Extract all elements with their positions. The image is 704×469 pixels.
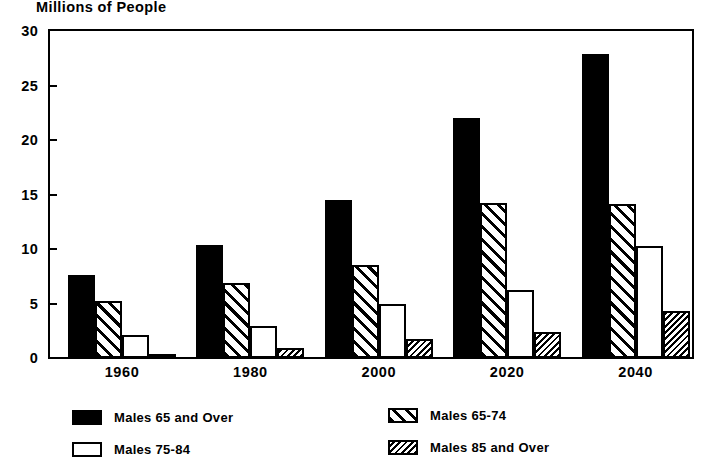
bar [223, 283, 250, 358]
bar [636, 246, 663, 358]
page-title: Millions of People [36, 0, 166, 15]
bar [406, 339, 433, 358]
y-axis-tick-label: 20 [21, 132, 38, 148]
bar [534, 332, 561, 358]
bar [507, 290, 534, 358]
legend-item: Males 65-74 [388, 408, 506, 423]
bar [453, 118, 480, 358]
bar [196, 245, 223, 358]
bar [122, 335, 149, 358]
y-axis-tick-label: 10 [21, 241, 38, 257]
legend-swatch-icon [388, 440, 418, 455]
y-axis-tick-label: 25 [21, 78, 38, 94]
x-axis-tick-label: 1980 [233, 364, 268, 380]
bar [95, 301, 122, 358]
legend-swatch-icon [72, 410, 102, 425]
bar [277, 348, 304, 358]
bar [352, 265, 379, 358]
bar [250, 326, 277, 358]
bar [480, 203, 507, 358]
bar-chart-figure: Millions of People 051015202530 19601980… [0, 0, 704, 469]
legend-item: Males 65 and Over [72, 410, 233, 425]
y-axis-tick-label: 5 [30, 296, 38, 312]
y-axis-tick-label: 0 [30, 350, 38, 366]
x-axis-tick-label: 2040 [618, 364, 653, 380]
bars-layer [50, 31, 692, 358]
bar [149, 354, 176, 358]
y-axis-tick-label: 30 [21, 23, 38, 39]
bar [325, 200, 352, 358]
x-axis-tick-label: 2000 [361, 364, 396, 380]
legend-item-label: Males 75-84 [114, 442, 190, 457]
legend-item-label: Males 85 and Over [430, 440, 549, 455]
bar [663, 311, 690, 358]
legend-item: Males 85 and Over [388, 440, 549, 455]
legend-item-label: Males 65 and Over [114, 410, 233, 425]
legend-item: Males 75-84 [72, 442, 190, 457]
bar [582, 54, 609, 358]
y-axis: 051015202530 [0, 0, 48, 380]
bar [609, 204, 636, 358]
legend-swatch-icon [388, 408, 418, 423]
bar [68, 275, 95, 358]
x-axis-tick-label: 2020 [490, 364, 525, 380]
legend: Males 65 and OverMales 65-74Males 75-84M… [0, 404, 704, 469]
y-axis-tick-label: 15 [21, 187, 38, 203]
bar [379, 304, 406, 359]
legend-item-label: Males 65-74 [430, 408, 506, 423]
x-axis-tick-label: 1960 [105, 364, 140, 380]
legend-swatch-icon [72, 442, 102, 457]
